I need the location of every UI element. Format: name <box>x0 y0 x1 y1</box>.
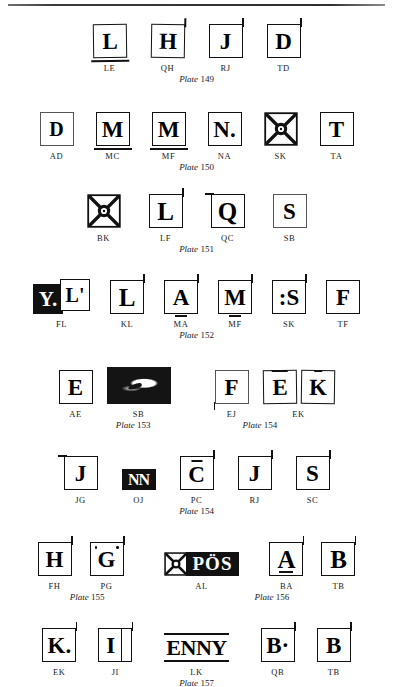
plate-number: 153 <box>137 420 151 430</box>
mark-row-plate-155-156: H FH G PG <box>0 534 393 602</box>
mark-glyph: G <box>90 534 124 576</box>
mark-caption: TA <box>331 151 343 161</box>
plate-number: 157 <box>200 678 214 687</box>
mark-glyph: B <box>321 534 355 576</box>
mark-item: L LE <box>93 16 127 73</box>
mark-item: E K EK <box>263 362 335 419</box>
plate-word: Plate <box>179 244 198 254</box>
mark-glyph: M <box>96 104 130 146</box>
mark-group: Y. L' FL L KL <box>0 272 393 329</box>
plate-word: Plate <box>243 420 262 430</box>
mark-glyph: E <box>59 362 93 404</box>
caron-mark <box>191 460 202 462</box>
mark-box: H <box>38 542 72 576</box>
mark-letter: J <box>249 462 261 485</box>
mark-letter: M <box>102 118 124 141</box>
mark-caption: PG <box>100 581 112 591</box>
mark-letter: H <box>46 548 64 571</box>
mark-glyph: H <box>151 16 185 58</box>
mark-group: D AD M MC M MF <box>0 104 393 161</box>
mark-item: ENNY LK <box>164 620 228 677</box>
plate-number: 154 <box>264 420 278 430</box>
mark-letter: L <box>157 199 174 224</box>
mark-item: M MF <box>152 104 186 161</box>
mark-item: E AE <box>59 362 93 419</box>
mark-item: T TA <box>320 104 354 161</box>
mark-item: S SC <box>296 448 330 505</box>
mark-item: SB <box>107 362 171 419</box>
mark-letter: K. <box>48 634 72 657</box>
mark-box: S <box>273 194 307 228</box>
mark-box: I <box>98 628 132 662</box>
top-rule <box>8 4 385 6</box>
mark-box: L <box>92 24 126 58</box>
mark-box: A <box>269 542 303 576</box>
mark-letter: B <box>330 547 347 572</box>
mark-letter: Q <box>218 199 237 224</box>
mark-item: A MA <box>164 272 198 329</box>
mark-box: A <box>164 280 198 314</box>
mark-box: H <box>150 24 185 59</box>
plate-word: Plate <box>179 330 198 340</box>
mark-letter: B <box>326 634 341 657</box>
mark-row-plate-154b: J JG NN OJ C <box>0 448 393 516</box>
mark-letter: PÖS <box>193 554 233 573</box>
mark-item: L LF <box>149 186 183 243</box>
mark-letter: ENNY <box>166 635 226 660</box>
plate-word: Plate <box>116 420 135 430</box>
mark-letter: M <box>158 118 180 141</box>
mark-item: B· QB <box>261 620 295 677</box>
mark-group: L LE H QH J RJ <box>0 16 393 73</box>
plate-label: Plate 155 <box>70 592 105 602</box>
mark-glyph: J <box>209 16 243 58</box>
ink-blotch-mark <box>107 367 171 404</box>
mark-box: L <box>149 194 183 228</box>
mark-caption: RJ <box>249 495 259 505</box>
mark-letter: S <box>283 200 296 223</box>
mark-caption: MF <box>228 319 242 329</box>
mark-caption: LF <box>160 233 171 243</box>
mark-glyph: N. <box>208 104 242 146</box>
mark-item: Y. L' FL <box>33 272 90 329</box>
mark-caption: SB <box>133 409 145 419</box>
plate-word: Plate <box>179 74 198 84</box>
mark-row-plate-157: K. EK I JI ENNY <box>0 620 393 687</box>
plate-word: Plate <box>255 592 274 602</box>
plate-label: Plate 154 <box>0 506 393 516</box>
mark-glyph: A <box>269 534 303 576</box>
mark-item: C PC <box>180 448 214 505</box>
plate-word: Plate <box>70 592 89 602</box>
mark-caption: TD <box>277 63 290 73</box>
overbar-mark <box>271 370 287 372</box>
plate-label: Plate 150 <box>0 162 393 172</box>
mark-glyph: D <box>40 104 74 146</box>
mark-caption: KL <box>121 319 134 329</box>
mark-glyph <box>87 186 121 228</box>
mark-item: :S SK <box>272 272 306 329</box>
mark-box: J <box>64 456 98 490</box>
mark-letter: F <box>336 286 350 309</box>
mark-box: G <box>90 542 124 576</box>
mark-caption: AL <box>195 581 208 591</box>
mark-rule-word: ENNY <box>164 633 228 662</box>
mark-caption: AE <box>69 409 82 419</box>
mark-glyph: A <box>164 272 198 314</box>
mark-box: N. <box>208 112 242 146</box>
mark-glyph: Y. L' <box>33 272 90 314</box>
mark-caption: QB <box>271 667 284 677</box>
mark-caption: EK <box>53 667 66 677</box>
mark-letter: M <box>224 286 246 309</box>
mark-item: M MC <box>96 104 130 161</box>
mark-glyph: S <box>273 186 307 228</box>
mark-caption: SC <box>307 495 319 505</box>
corner-dot <box>116 546 119 549</box>
mark-caption: TF <box>337 319 348 329</box>
plate-number: 152 <box>200 330 214 340</box>
mark-letter: E <box>272 375 288 398</box>
mark-caption: QC <box>221 233 234 243</box>
mark-glyph: F <box>215 362 249 404</box>
mark-item: B TB <box>321 534 355 591</box>
mark-letter: A <box>277 547 295 572</box>
mark-item: B TB <box>317 620 351 677</box>
mark-caption: EK <box>292 409 305 419</box>
